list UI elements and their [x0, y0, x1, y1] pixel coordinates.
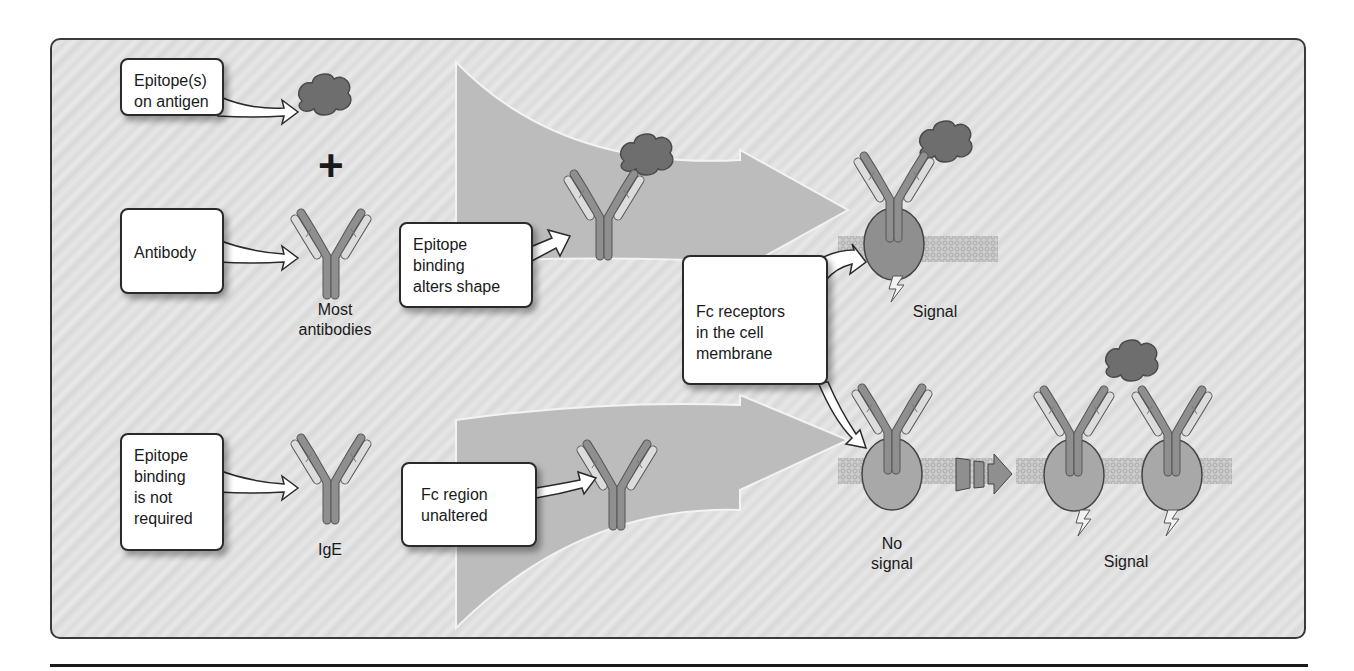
callout-fc-unaltered: Fc region unaltered	[401, 462, 537, 547]
antibody-icon	[295, 213, 367, 295]
lightning-bolt-icon	[1164, 510, 1179, 536]
pointer-arrow	[218, 96, 298, 124]
callout-antibody: Antibody	[120, 208, 224, 294]
plus-sign: +	[318, 144, 344, 188]
callout-epitope-not-required: Epitope binding is not required	[120, 433, 224, 551]
callout-epitope-alters-shape: Epitope binding alters shape	[399, 222, 533, 308]
lightning-bolt-icon	[1076, 510, 1091, 536]
label-most-antibodies: Most antibodies	[290, 300, 380, 340]
label-signal-bottom: Signal	[1096, 552, 1156, 572]
label-signal-top: Signal	[905, 302, 965, 322]
callout-epitope-on-antigen: Epitope(s) on antigen	[120, 58, 224, 116]
antibody-icon	[295, 438, 367, 520]
antigen-blob-icon	[299, 74, 351, 115]
callout-fc-receptors: Fc receptors in the cell membrane	[682, 255, 828, 385]
antigen-blob-icon	[1106, 340, 1158, 381]
antigen-blob-icon	[621, 134, 673, 175]
pointer-arrow	[218, 240, 298, 270]
label-no-signal: No signal	[862, 534, 922, 574]
pointer-arrow	[218, 470, 298, 500]
label-ige: IgE	[310, 540, 350, 560]
